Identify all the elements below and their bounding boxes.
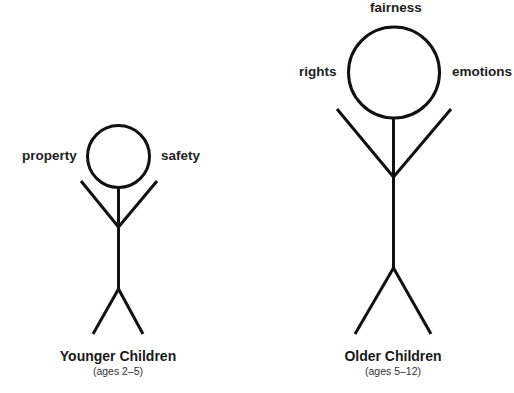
older-children-age-range: (ages 5–12)	[365, 365, 421, 377]
younger-child-head	[88, 126, 150, 188]
concept-label-emotions: emotions	[452, 64, 512, 80]
younger-child-figure	[81, 126, 157, 335]
older-children-title: Older Children	[344, 348, 441, 364]
concept-label-rights: rights	[299, 64, 337, 80]
concept-label-safety: safety	[161, 148, 200, 164]
younger-child-right-leg	[119, 289, 144, 334]
older-child-figure	[337, 27, 451, 334]
stick-figures	[0, 0, 514, 393]
older-child-right-leg	[394, 268, 432, 334]
concept-label-property: property	[22, 148, 77, 164]
older-child-left-leg	[355, 268, 394, 334]
older-child-left-arm	[337, 109, 394, 177]
diagram-canvas: property safety Younger Children (ages 2…	[0, 0, 514, 393]
younger-children-title: Younger Children	[60, 348, 176, 364]
older-child-head	[349, 27, 440, 118]
younger-children-age-range: (ages 2–5)	[93, 365, 143, 377]
older-child-right-arm	[394, 109, 452, 177]
concept-label-fairness: fairness	[370, 0, 422, 16]
younger-child-left-leg	[93, 289, 119, 334]
